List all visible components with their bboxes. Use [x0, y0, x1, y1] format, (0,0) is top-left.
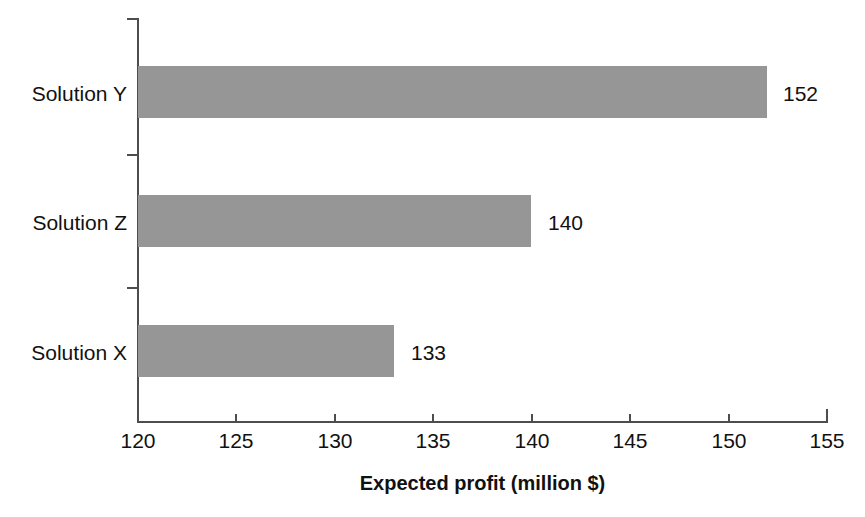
bar-chart: 152 140 133 Solution Y Solution Z Soluti… [0, 0, 865, 517]
y-axis-tick-top [127, 18, 138, 20]
bar-value-solution-z: 140 [548, 212, 583, 233]
y-axis-label-solution-y: Solution Y [32, 83, 127, 104]
x-axis-tick-150 [728, 414, 730, 423]
bar-value-solution-y: 152 [783, 83, 818, 104]
x-axis-tick-label-130: 130 [300, 430, 370, 451]
y-axis-tick-2 [127, 287, 138, 289]
bar-solution-x [138, 325, 394, 377]
y-axis-label-solution-x: Solution X [31, 342, 127, 363]
x-axis-title: Expected profit (million $) [138, 472, 827, 495]
x-axis-tick-130 [334, 414, 336, 423]
y-axis-tick-1 [127, 154, 138, 156]
x-axis-line [138, 421, 827, 423]
x-axis-tick-label-140: 140 [497, 430, 567, 451]
bar-value-solution-x: 133 [411, 342, 446, 363]
x-axis-tick-155 [826, 409, 828, 423]
x-axis-tick-135 [432, 414, 434, 423]
x-axis-tick-140 [531, 414, 533, 423]
x-axis-tick-label-155: 155 [792, 430, 862, 451]
x-axis-tick-label-135: 135 [398, 430, 468, 451]
x-axis-tick-120 [137, 409, 139, 423]
y-axis-label-solution-z: Solution Z [32, 212, 127, 233]
x-axis-tick-145 [629, 414, 631, 423]
x-axis-tick-label-125: 125 [201, 430, 271, 451]
x-axis-tick-label-145: 145 [595, 430, 665, 451]
x-axis-tick-125 [235, 414, 237, 423]
x-axis-tick-label-150: 150 [694, 430, 764, 451]
x-axis-tick-label-120: 120 [103, 430, 173, 451]
bar-solution-z [138, 195, 531, 247]
bar-solution-y [138, 66, 767, 118]
